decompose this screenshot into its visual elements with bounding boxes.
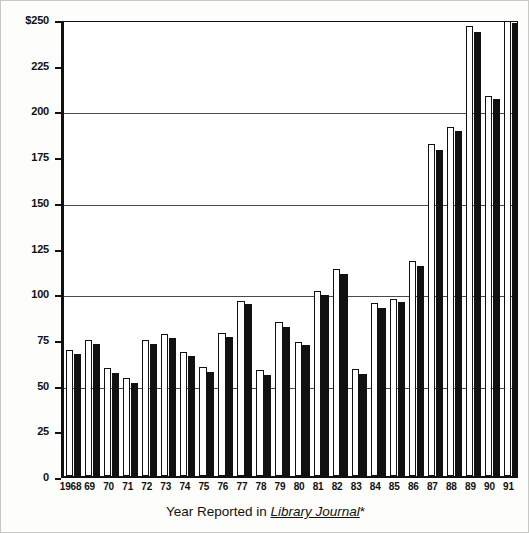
bar-white-bar-91 (504, 21, 511, 476)
bar-group (104, 22, 119, 476)
bar-white-bar-89 (466, 26, 473, 476)
bar-white-bar-72 (142, 340, 149, 476)
y-axis-tick-label: $250 (5, 14, 49, 26)
bar-black-bar-81 (321, 295, 328, 476)
bar-black-bar-85 (398, 302, 405, 476)
y-axis-tick-label: 125 (5, 243, 49, 255)
bar-black-bar-1968 (74, 354, 81, 476)
bar-black-bar-80 (302, 345, 309, 476)
y-axis-tick-label: 0 (5, 471, 49, 483)
bar-white-bar-76 (218, 333, 225, 476)
bar-black-bar-77 (245, 304, 252, 476)
bar-white-bar-74 (180, 352, 187, 476)
bar-group (85, 22, 100, 476)
bar-group (142, 22, 157, 476)
bar-black-bar-74 (188, 356, 195, 476)
chart-figure: 0255075100125150175200225$250 1968697071… (0, 0, 529, 533)
bar-black-bar-83 (359, 374, 366, 476)
bar-group (447, 22, 462, 476)
bar-group (295, 22, 310, 476)
bar-white-bar-77 (237, 301, 244, 476)
y-axis-tick-label: 50 (5, 380, 49, 392)
bar-black-bar-71 (131, 383, 138, 476)
bar-black-bar-73 (169, 338, 176, 476)
bar-group (314, 22, 329, 476)
bar-group (409, 22, 424, 476)
bar-group (275, 22, 290, 476)
bar-group (428, 22, 443, 476)
bar-group (218, 22, 233, 476)
bar-white-bar-83 (352, 369, 359, 476)
y-axis-tick-label: 200 (5, 105, 49, 117)
bar-group (123, 22, 138, 476)
bar-white-bar-80 (295, 342, 302, 476)
x-axis-title-suffix: * (360, 504, 365, 519)
y-axis-tick-label: 150 (5, 197, 49, 209)
bar-black-bar-72 (150, 344, 157, 476)
bar-white-bar-78 (256, 370, 263, 476)
bar-white-bar-73 (161, 334, 168, 476)
bar-black-bar-69 (93, 344, 100, 476)
bar-black-bar-78 (264, 375, 271, 476)
bar-black-bar-75 (207, 372, 214, 476)
bar-white-bar-69 (85, 340, 92, 476)
y-axis-tick-label: 75 (5, 334, 49, 346)
bar-white-bar-1968 (66, 350, 73, 476)
bar-black-bar-86 (417, 266, 424, 476)
bar-group (390, 22, 405, 476)
bar-black-bar-89 (474, 32, 481, 476)
bar-group (504, 22, 518, 476)
bar-black-bar-76 (226, 337, 233, 476)
bar-black-bar-84 (378, 308, 385, 476)
bar-white-bar-84 (371, 303, 378, 476)
bar-group (333, 22, 348, 476)
bar-group (466, 22, 481, 476)
bar-black-bar-70 (112, 373, 119, 476)
x-axis-title-prefix: Year Reported in (166, 504, 271, 519)
bar-group (199, 22, 214, 476)
bar-group (180, 22, 195, 476)
bar-white-bar-87 (428, 144, 435, 476)
bar-white-bar-79 (275, 322, 282, 476)
bar-black-bar-79 (283, 327, 290, 476)
bar-white-bar-90 (485, 96, 492, 476)
bar-white-bar-85 (390, 299, 397, 476)
bar-group (256, 22, 271, 476)
bar-black-bar-87 (436, 150, 443, 476)
bar-white-bar-75 (199, 367, 206, 476)
plot-area (61, 21, 518, 478)
bar-black-bar-91 (512, 23, 518, 476)
bar-white-bar-88 (447, 127, 454, 476)
bar-series-container (64, 22, 517, 476)
bar-white-bar-71 (123, 378, 130, 476)
x-axis-tick-label: 91 (488, 481, 528, 492)
bar-group (161, 22, 176, 476)
x-axis-title-emphasis: Library Journal (271, 504, 360, 519)
bar-black-bar-88 (455, 131, 462, 476)
bar-white-bar-82 (333, 269, 340, 476)
bar-group (66, 22, 81, 476)
bar-group (352, 22, 367, 476)
bar-white-bar-70 (104, 368, 111, 476)
y-axis-tick-label: 175 (5, 151, 49, 163)
bar-group (237, 22, 252, 476)
bar-black-bar-90 (493, 99, 500, 476)
y-axis-tick-label: 100 (5, 288, 49, 300)
bar-group (371, 22, 386, 476)
y-axis-tick-label: 25 (5, 425, 49, 437)
y-axis-tick-label: 225 (5, 60, 49, 72)
bar-group (485, 22, 500, 476)
x-axis: 1968697071727374757677787980818283848586… (61, 480, 518, 500)
x-axis-title: Year Reported in Library Journal* (1, 504, 529, 519)
bar-black-bar-82 (340, 274, 347, 476)
bar-white-bar-86 (409, 261, 416, 476)
bar-white-bar-81 (314, 291, 321, 476)
